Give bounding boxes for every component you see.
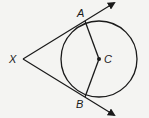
label-c: C <box>104 53 112 65</box>
radius-ca <box>85 21 99 59</box>
radius-cb <box>85 59 99 97</box>
label-a: A <box>76 7 84 19</box>
ray-xb <box>23 59 114 115</box>
label-x: X <box>8 53 17 65</box>
center-point-c <box>97 57 101 61</box>
label-b: B <box>76 98 83 110</box>
tangent-circle-diagram: X A B C <box>0 0 149 118</box>
diagram-canvas: X A B C <box>0 0 149 118</box>
ray-xa <box>23 3 114 59</box>
